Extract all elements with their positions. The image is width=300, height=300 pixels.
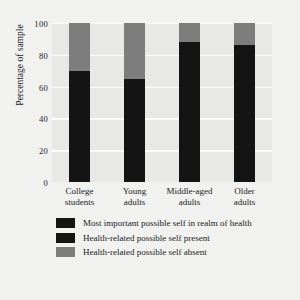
legend-swatch-self-present <box>56 233 75 243</box>
x-tick-line2: students <box>52 197 107 208</box>
x-tick-line2: adults <box>162 197 217 208</box>
x-tick-label-older-adults: Older adults <box>217 186 272 208</box>
y-tick-label-100: 100 <box>8 19 48 29</box>
bar-segment-present <box>124 79 145 182</box>
x-tick-line1: Young <box>123 186 147 196</box>
x-tick-line2: adults <box>217 197 272 208</box>
x-tick-line1: Middle-aged <box>167 186 213 196</box>
legend-label-most-important: Most important possible self in realm of… <box>83 218 252 228</box>
chart-legend: Most important possible self in realm of… <box>56 218 288 262</box>
x-axis-tick-labels: College students Young adults Middle-age… <box>52 186 272 208</box>
bar-segment-absent <box>179 23 200 42</box>
bar-older-adults <box>234 23 255 182</box>
bar-segment-present <box>179 42 200 182</box>
legend-swatch-self-absent <box>56 247 75 257</box>
x-tick-label-college-students: College students <box>52 186 107 208</box>
legend-label-self-absent: Health-related possible self absent <box>83 247 207 257</box>
bar-college-students <box>69 23 90 182</box>
legend-item-self-present: Health-related possible self present <box>56 233 288 243</box>
chart-figure: Percentage of sample 100 80 60 40 20 0 <box>0 0 300 300</box>
y-tick-label-80: 80 <box>8 51 48 61</box>
legend-label-self-present: Health-related possible self present <box>83 233 210 243</box>
bar-middle-aged-adults <box>179 23 200 182</box>
y-tick-label-40: 40 <box>8 114 48 124</box>
y-tick-label-20: 20 <box>8 146 48 156</box>
x-tick-line1: College <box>66 186 94 196</box>
x-tick-label-middle-aged-adults: Middle-aged adults <box>162 186 217 208</box>
plot-area <box>52 23 272 182</box>
y-tick-label-0: 0 <box>8 178 48 188</box>
x-tick-label-young-adults: Young adults <box>107 186 162 208</box>
bar-segment-present <box>69 71 90 182</box>
bar-young-adults <box>124 23 145 182</box>
bar-segment-absent <box>69 23 90 71</box>
bars-layer <box>52 23 272 182</box>
y-tick-label-60: 60 <box>8 83 48 93</box>
legend-item-self-absent: Health-related possible self absent <box>56 247 288 257</box>
bar-segment-present <box>234 45 255 182</box>
x-tick-line1: Older <box>234 186 255 196</box>
legend-swatch-most-important <box>56 218 75 228</box>
bar-segment-absent <box>124 23 145 79</box>
bar-segment-absent <box>234 23 255 45</box>
legend-item-most-important: Most important possible self in realm of… <box>56 218 288 228</box>
x-tick-line2: adults <box>107 197 162 208</box>
